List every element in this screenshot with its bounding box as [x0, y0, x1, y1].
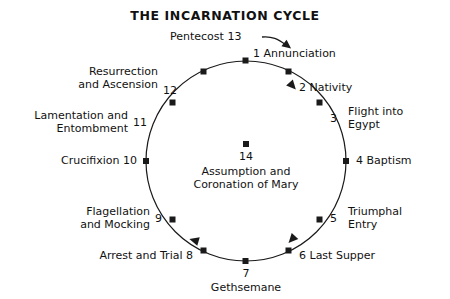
label-node-14-number: 14 — [186, 150, 306, 163]
label-node-11-number: 11 — [133, 116, 147, 129]
label-node-10-number: 10 — [123, 154, 137, 167]
label-node-12-line2: and Ascension — [30, 78, 158, 91]
label-node-9: Flagellation and Mocking — [20, 205, 150, 231]
label-node-14-line2: Coronation of Mary — [176, 178, 316, 191]
incarnation-cycle-diagram: THE INCARNATION CYCLE Pentecost 13 1 Ann… — [0, 0, 450, 299]
label-node-3-number: 3 — [330, 112, 337, 125]
pentecost-arrow-shaft — [262, 37, 286, 45]
label-node-9-line2: and Mocking — [20, 218, 150, 231]
label-node-5-number: 5 — [330, 212, 337, 225]
label-node-8-number: 8 — [186, 249, 193, 262]
label-node-10-text: Crucifixion — [61, 154, 119, 167]
label-node-6-number: 6 — [299, 249, 306, 262]
label-node-11-line2: Entombment — [2, 122, 128, 135]
arrowhead-clockwise-lower-right — [285, 233, 298, 246]
node-marker-1 — [243, 58, 249, 64]
label-node-3-line2: Egypt — [348, 118, 403, 131]
node-marker-2 — [286, 69, 292, 75]
node-marker-14 — [243, 141, 249, 147]
node-marker-8 — [201, 248, 207, 254]
label-node-2: 2 Nativity — [299, 81, 352, 94]
node-marker-3 — [317, 100, 323, 106]
label-node-12-number: 12 — [163, 84, 177, 97]
label-node-8: Arrest and Trial 8 — [48, 249, 193, 262]
label-node-4-number: 4 — [356, 154, 363, 167]
label-node-10: Crucifixion 10 — [15, 154, 137, 167]
label-node-2-text: Nativity — [310, 81, 353, 94]
label-node-14: Assumption and Coronation of Mary — [176, 165, 316, 191]
label-node-1-text: Annunciation — [264, 47, 336, 60]
label-node-6-text: Last Supper — [310, 249, 376, 262]
label-node-14-line1: Assumption and — [176, 165, 316, 178]
label-node-4-text: Baptism — [367, 154, 412, 167]
node-marker-10 — [143, 158, 149, 164]
label-node-2-number: 2 — [299, 81, 306, 94]
label-node-5-line1: Triumphal — [348, 205, 402, 218]
label-node-3: Flight into Egypt — [348, 105, 403, 131]
node-marker-5 — [317, 217, 323, 223]
label-node-5-line2: Entry — [348, 218, 402, 231]
label-node-7-number: 7 — [196, 267, 296, 280]
label-node-1-number: 1 — [253, 47, 260, 60]
label-node-7: Gethsemane — [186, 281, 306, 294]
node-marker-7 — [243, 258, 249, 264]
label-node-12-line1: Resurrection — [30, 65, 158, 78]
label-node-6: 6 Last Supper — [299, 249, 375, 262]
label-node-12: Resurrection and Ascension — [30, 65, 158, 91]
label-node-11-line1: Lamentation and — [2, 109, 128, 122]
label-node-3-line1: Flight into — [348, 105, 403, 118]
node-marker-9 — [170, 217, 176, 223]
node-marker-11 — [170, 100, 176, 106]
label-node-8-text: Arrest and Trial — [99, 249, 182, 262]
label-node-9-line1: Flagellation — [20, 205, 150, 218]
node-marker-4 — [343, 158, 349, 164]
label-node-1: 1 Annunciation — [253, 47, 336, 60]
node-marker-6 — [286, 248, 292, 254]
label-node-4: 4 Baptism — [356, 154, 412, 167]
label-node-9-number: 9 — [155, 212, 162, 225]
node-marker-12 — [201, 69, 207, 75]
label-pentecost-13: Pentecost 13 — [170, 30, 241, 43]
label-node-5: Triumphal Entry — [348, 205, 402, 231]
label-node-11: Lamentation and Entombment — [2, 109, 128, 135]
arrowhead-clockwise-top — [286, 79, 299, 92]
